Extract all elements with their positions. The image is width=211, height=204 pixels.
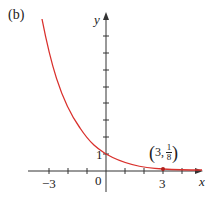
y-axis-arrow-icon xyxy=(103,12,109,20)
x-tick-label-neg3: −3 xyxy=(42,177,56,190)
y-axis-label: y xyxy=(94,13,100,26)
x-axis-label: x xyxy=(199,175,205,188)
x-tick-label-3: 3 xyxy=(159,177,166,190)
fraction-numerator: 1 xyxy=(167,143,172,152)
y-tick-label-1: 1 xyxy=(96,148,103,161)
exponential-curve xyxy=(42,19,202,170)
annotation-x: 3, xyxy=(155,145,164,160)
fraction-denominator: 8 xyxy=(167,153,172,162)
point-annotation: ( 3, 1 8 ) xyxy=(149,143,178,162)
point-marker xyxy=(161,167,165,171)
panel-label: (b) xyxy=(8,8,24,22)
x-tick-label-0: 0 xyxy=(95,174,102,187)
exponential-graph: (b) y x −3 0 3 1 ( 3, 1 8 ) xyxy=(0,0,211,204)
plot-area xyxy=(0,0,211,204)
